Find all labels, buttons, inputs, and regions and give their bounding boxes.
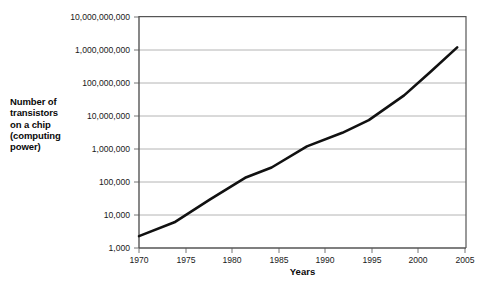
x-tick-label: 1985: [259, 255, 299, 265]
y-tick-label: 1,000,000,000: [46, 45, 130, 55]
x-tick-label: 2000: [398, 255, 438, 265]
y-axis-title-line-1: Number of: [10, 96, 96, 107]
gridlines: [139, 17, 466, 215]
x-tick-label: 1990: [305, 255, 345, 265]
y-tick-label: 10,000,000: [46, 111, 130, 121]
x-tick-label: 1995: [352, 255, 392, 265]
y-tick-label: 1,000: [46, 243, 130, 253]
x-tick-label: 1975: [166, 255, 206, 265]
x-tick-label: 2005: [445, 255, 485, 265]
x-tick-label: 1980: [212, 255, 252, 265]
y-tick-label: 100,000: [46, 177, 130, 187]
y-tick-label: 10,000: [46, 210, 130, 220]
x-axis-title: Years: [139, 266, 466, 277]
transistor-count-chart: Number of transistors on a chip (computi…: [0, 0, 488, 292]
x-axis-ticks: [139, 248, 465, 253]
y-tick-label: 100,000,000: [46, 78, 130, 88]
y-tick-label: 10,000,000,000: [46, 12, 130, 22]
x-tick-label: 1970: [119, 255, 159, 265]
y-axis-ticks: [134, 17, 139, 248]
y-axis-title-line-4: (computing: [10, 130, 96, 141]
data-line-transistors: [139, 47, 457, 236]
y-tick-label: 1,000,000: [46, 144, 130, 154]
